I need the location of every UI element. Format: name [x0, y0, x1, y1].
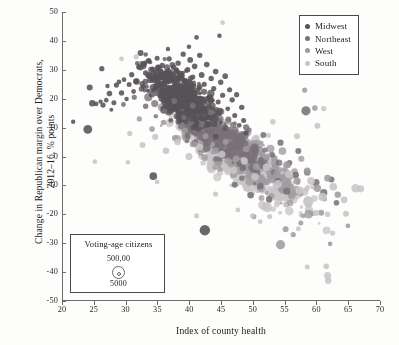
y-tick-label: 30: [0, 65, 58, 74]
x-tick-label: 50: [238, 305, 268, 314]
x-tick-label: 30: [111, 305, 141, 314]
x-tick-label: 20: [47, 305, 77, 314]
legend-swatch-icon: [305, 36, 310, 41]
legend-item-label: West: [315, 46, 333, 56]
legend-swatch-icon: [305, 48, 310, 53]
y-tick-label: -20: [0, 209, 58, 218]
y-tick-label: -40: [0, 267, 58, 276]
x-tick-mark: [253, 301, 254, 305]
legend-item-south[interactable]: South: [305, 57, 351, 69]
y-tick-label: 0: [0, 152, 58, 161]
y-tick-mark: [62, 243, 66, 244]
x-tick-mark: [285, 301, 286, 305]
legend-swatch-icon: [305, 24, 310, 29]
size-legend-title: Voting-age citizens: [71, 239, 166, 249]
x-tick-mark: [348, 301, 349, 305]
x-tick-label: 60: [301, 305, 331, 314]
legend-item-label: Northeast: [315, 34, 351, 44]
x-tick-mark: [221, 301, 222, 305]
x-tick-label: 40: [174, 305, 204, 314]
y-tick-label: -10: [0, 180, 58, 189]
legend-item-northeast[interactable]: Northeast: [305, 32, 351, 44]
x-tick-label: 65: [333, 305, 363, 314]
y-tick-label: 20: [0, 94, 58, 103]
size-legend-small-circle: [117, 272, 121, 276]
x-tick-mark: [62, 301, 63, 305]
legend-item-label: South: [315, 58, 337, 68]
x-tick-mark: [126, 301, 127, 305]
y-tick-mark: [62, 70, 66, 71]
scatter-plot-figure: Change in Republican margin over Democra…: [0, 0, 399, 345]
region-legend[interactable]: MidwestNortheastWestSouth: [299, 15, 359, 75]
y-tick-mark: [62, 185, 66, 186]
x-tick-mark: [316, 301, 317, 305]
y-tick-mark: [62, 99, 66, 100]
x-tick-label: 70: [365, 305, 395, 314]
y-tick-label: 50: [0, 7, 58, 16]
x-tick-label: 35: [142, 305, 172, 314]
legend-swatch-icon: [305, 61, 310, 66]
x-tick-mark: [189, 301, 190, 305]
x-tick-mark: [157, 301, 158, 305]
legend-item-midwest[interactable]: Midwest: [305, 20, 351, 32]
y-tick-label: -50: [0, 296, 58, 305]
x-tick-label: 25: [79, 305, 109, 314]
x-tick-label: 55: [270, 305, 300, 314]
y-tick-mark: [62, 41, 66, 42]
x-axis-title: Index of county health: [62, 325, 380, 336]
x-tick-mark: [94, 301, 95, 305]
legend-item-west[interactable]: West: [305, 45, 351, 57]
y-tick-mark: [62, 128, 66, 129]
y-tick-mark: [62, 272, 66, 273]
y-tick-label: 10: [0, 123, 58, 132]
x-tick-label: 45: [206, 305, 236, 314]
x-tick-mark: [380, 301, 381, 305]
size-legend-small-label: 5000: [71, 279, 166, 288]
y-tick-mark: [62, 12, 66, 13]
y-tick-mark: [62, 214, 66, 215]
size-legend: Voting-age citizens 500,00 5000: [70, 234, 165, 293]
y-tick-label: -30: [0, 238, 58, 247]
y-tick-label: 40: [0, 36, 58, 45]
legend-item-label: Midwest: [315, 21, 347, 31]
size-legend-large-label: 500,00: [71, 254, 166, 263]
y-tick-mark: [62, 157, 66, 158]
